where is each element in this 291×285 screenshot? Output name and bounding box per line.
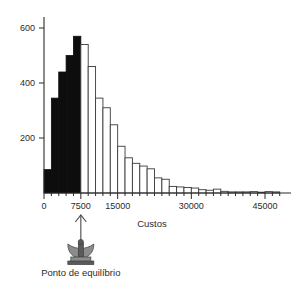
- x-tick-label: 15000: [105, 201, 130, 211]
- x-tick-label: 30000: [179, 201, 204, 211]
- y-tick-label: 200: [20, 133, 35, 143]
- histogram-bar: [191, 188, 198, 193]
- histogram-bar: [110, 125, 117, 193]
- histogram-bar: [147, 169, 154, 193]
- histogram-figure: 200400600 07500150003000045000 Custos Po…: [0, 0, 291, 285]
- histogram-bar: [81, 45, 88, 194]
- histogram-chart: 200400600 07500150003000045000 Custos Po…: [0, 0, 291, 285]
- y-tick-label: 600: [20, 23, 35, 33]
- x-tick-label: 45000: [252, 201, 277, 211]
- x-tick-label: 0: [41, 201, 46, 211]
- x-tick-label: 7500: [71, 201, 91, 211]
- histogram-bar: [59, 72, 66, 193]
- balance-point-caption: Ponto de equilíbrio: [41, 267, 120, 278]
- y-axis-ticks: 200400600: [20, 23, 44, 143]
- histogram-bar: [155, 178, 162, 193]
- histogram-bars: [44, 36, 280, 193]
- histogram-bar: [132, 163, 139, 193]
- histogram-bar: [51, 98, 58, 193]
- histogram-bar: [103, 108, 110, 193]
- balance-column-icon: [78, 243, 83, 257]
- histogram-bar: [140, 166, 147, 193]
- balance-knob-icon: [78, 239, 83, 244]
- histogram-bar: [177, 187, 184, 193]
- balance-foot-icon: [68, 261, 94, 265]
- histogram-bar: [66, 56, 73, 194]
- histogram-bar: [96, 98, 103, 193]
- histogram-bar: [73, 36, 80, 193]
- histogram-bar: [88, 67, 95, 194]
- histogram-bar: [44, 170, 51, 193]
- x-axis-ticks: 07500150003000045000: [41, 193, 279, 211]
- histogram-bar: [169, 186, 176, 193]
- balance-point-marker: [68, 215, 94, 265]
- x-axis-title: Custos: [137, 218, 167, 229]
- y-tick-label: 400: [20, 78, 35, 88]
- histogram-bar: [213, 189, 220, 193]
- histogram-bar: [162, 179, 169, 193]
- histogram-bar: [118, 146, 125, 193]
- histogram-bar: [184, 188, 191, 194]
- histogram-bar: [125, 158, 132, 193]
